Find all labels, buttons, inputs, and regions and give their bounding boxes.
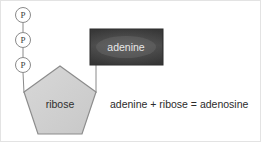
diagram-canvas: ribose adenine P P P adenine + ribose = … [0, 0, 262, 143]
equation-caption: adenine + ribose = adenosine [110, 98, 249, 110]
phosphate-label-2: P [20, 35, 25, 45]
adenosine-diagram: ribose adenine P P P adenine + ribose = … [0, 0, 262, 143]
adenine-label: adenine [107, 41, 145, 53]
phosphate-label-1: P [20, 10, 25, 20]
ribose-label: ribose [46, 98, 75, 110]
connector-phosphate-to-ribose [23, 73, 24, 94]
phosphate-label-3: P [20, 60, 25, 70]
